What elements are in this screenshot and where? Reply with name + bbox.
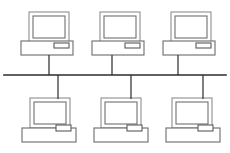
drive-slot-icon: [198, 125, 213, 131]
drive-slot-icon: [196, 43, 211, 48]
computer-top-center: [92, 12, 144, 55]
monitor-screen-icon: [34, 102, 66, 124]
monitor-screen-icon: [104, 16, 136, 38]
monitor-screen-icon: [176, 102, 208, 124]
drive-slot-icon: [127, 125, 142, 131]
drive-slot-icon: [56, 125, 71, 131]
computer-bottom-left: [22, 98, 76, 142]
diagram-canvas: [0, 0, 230, 153]
network-topology-diagram: [0, 0, 230, 153]
drop-cables-layer: [49, 55, 203, 99]
computer-top-left: [21, 12, 73, 55]
drive-slot-icon: [125, 43, 140, 48]
computer-bottom-right: [166, 98, 220, 142]
monitor-screen-icon: [33, 16, 65, 38]
computer-top-right: [163, 12, 215, 55]
monitor-screen-icon: [105, 102, 137, 124]
computer-bottom-center: [94, 98, 148, 142]
computer-nodes-layer: [21, 12, 220, 142]
monitor-screen-icon: [175, 16, 207, 38]
drive-slot-icon: [54, 43, 69, 48]
